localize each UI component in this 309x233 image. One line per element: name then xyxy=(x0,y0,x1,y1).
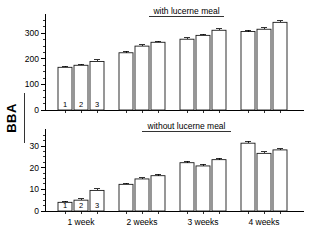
bar[interactable] xyxy=(257,153,271,211)
bar[interactable] xyxy=(119,184,133,211)
y-axis-tick-label: 200 xyxy=(25,54,39,64)
y-axis-tick-label: 0 xyxy=(34,206,39,216)
bar[interactable] xyxy=(180,163,194,211)
y-axis-tick-label: 10 xyxy=(30,184,40,194)
bar[interactable] xyxy=(273,22,287,110)
panel-title: with lucerne meal xyxy=(152,6,219,16)
bar[interactable] xyxy=(196,35,210,110)
x-axis-category-label: 3 weeks xyxy=(187,217,218,227)
y-axis-title: BBA xyxy=(4,103,19,133)
bar[interactable] xyxy=(151,176,165,211)
bar[interactable] xyxy=(212,30,226,110)
panel-with-lucerne-meal: 0100200300with lucerne meal123 xyxy=(25,6,304,115)
panel-title: without lucerne meal xyxy=(147,121,226,131)
bar[interactable] xyxy=(273,150,287,211)
y-axis-tick-label: 30 xyxy=(30,141,40,151)
bar[interactable] xyxy=(241,143,255,211)
bar[interactable] xyxy=(180,39,194,110)
bar[interactable] xyxy=(119,53,133,110)
y-axis-tick-label: 20 xyxy=(30,163,40,173)
bar-index-label: 2 xyxy=(79,100,83,109)
y-axis-tick-label: 300 xyxy=(25,28,39,38)
y-axis-tick-label: 0 xyxy=(34,105,39,115)
bar-index-label: 2 xyxy=(79,201,83,210)
bar[interactable] xyxy=(212,160,226,211)
x-axis-category-label: 2 weeks xyxy=(126,217,157,227)
bar-index-label: 1 xyxy=(63,201,67,210)
bar[interactable] xyxy=(257,29,271,110)
bba-grouped-bar-chart: 0100200300with lucerne meal1230102030wit… xyxy=(0,0,309,233)
y-axis-title-group: BBA xyxy=(4,93,24,143)
chart-figure: 0100200300with lucerne meal1230102030wit… xyxy=(0,0,309,233)
panel-without-lucerne-meal: 0102030without lucerne meal1231 week2 we… xyxy=(30,121,304,227)
bar[interactable] xyxy=(135,46,149,110)
bar[interactable] xyxy=(196,166,210,211)
bar[interactable] xyxy=(135,179,149,211)
bar-index-label: 3 xyxy=(95,100,99,109)
bar-index-label: 3 xyxy=(95,201,99,210)
bar-index-label: 1 xyxy=(63,100,67,109)
x-axis-category-label: 1 week xyxy=(68,217,96,227)
bar[interactable] xyxy=(241,32,255,110)
bar[interactable] xyxy=(151,42,165,110)
y-axis-tick-label: 100 xyxy=(25,79,39,89)
x-axis-category-label: 4 weeks xyxy=(248,217,279,227)
